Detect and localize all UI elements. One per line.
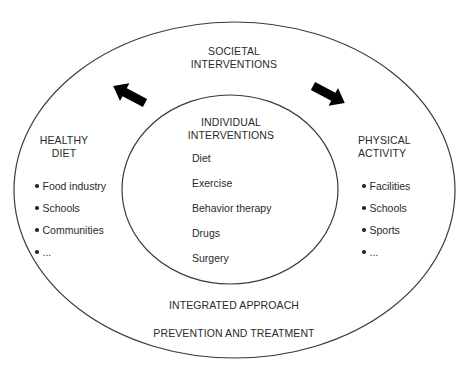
list-item: Schools (362, 202, 410, 224)
physical-activity-line2: ACTIVITY (358, 147, 411, 160)
bullet-icon (35, 184, 39, 188)
bullet-icon (35, 206, 39, 210)
bullet-icon (362, 184, 366, 188)
bullet-icon (35, 228, 39, 232)
bullet-icon (35, 250, 39, 254)
physical-activity-line1: PHYSICAL (358, 134, 411, 147)
societal-title-line2: INTERVENTIONS (191, 58, 277, 71)
bullet-icon (362, 206, 366, 210)
list-item: ... (362, 246, 410, 268)
individual-interventions-list: Diet Exercise Behavior therapy Drugs Sur… (192, 152, 271, 277)
arrow-left-icon (109, 77, 150, 112)
healthy-diet-list: Food industry Schools Communities ... (35, 180, 106, 268)
list-item: Behavior therapy (192, 202, 271, 227)
societal-title-line1: SOCIETAL (191, 45, 277, 58)
list-item: Diet (192, 152, 271, 177)
list-item: Communities (35, 224, 106, 246)
healthy-diet-title: HEALTHY DIET (40, 134, 88, 160)
healthy-diet-line1: HEALTHY (40, 134, 88, 147)
list-item: Schools (35, 202, 106, 224)
list-item: Drugs (192, 227, 271, 252)
list-item: ... (35, 246, 106, 268)
physical-activity-list: Facilities Schools Sports ... (362, 180, 410, 268)
bullet-icon (362, 228, 366, 232)
list-item: Food industry (35, 180, 106, 202)
prevention-treatment-label: PREVENTION AND TREATMENT (153, 327, 314, 340)
list-item: Exercise (192, 177, 271, 202)
individual-title-line1: INDIVIDUAL (188, 116, 274, 129)
list-item: Surgery (192, 252, 271, 277)
bullet-icon (362, 250, 366, 254)
individual-interventions-title: INDIVIDUAL INTERVENTIONS (188, 116, 274, 142)
list-item: Sports (362, 224, 410, 246)
societal-interventions-title: SOCIETAL INTERVENTIONS (191, 45, 277, 71)
individual-title-line2: INTERVENTIONS (188, 129, 274, 142)
list-item: Facilities (362, 180, 410, 202)
arrow-right-icon (308, 77, 349, 112)
physical-activity-title: PHYSICAL ACTIVITY (358, 134, 411, 160)
integrated-approach-label: INTEGRATED APPROACH (169, 299, 299, 312)
healthy-diet-line2: DIET (40, 147, 88, 160)
